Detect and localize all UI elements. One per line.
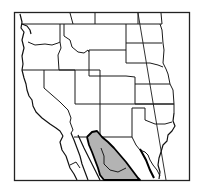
range-map [0,0,199,195]
